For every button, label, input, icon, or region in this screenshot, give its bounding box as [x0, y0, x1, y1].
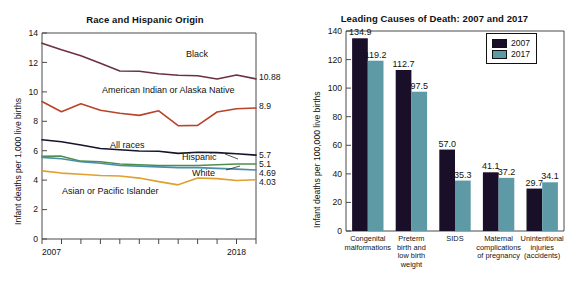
bar-1-1 [411, 92, 427, 231]
legend-swatch-2017 [492, 50, 507, 59]
bar-value-label-1-1: 97.5 [408, 81, 430, 91]
bar-category-label-0: Congenital malformations [343, 235, 393, 252]
bar-0-0 [352, 38, 368, 231]
bar-category-label-4: Unintentional injuries (accidents) [517, 235, 567, 261]
bar-group [352, 38, 558, 231]
bar-4-0 [527, 189, 543, 231]
legend-row-2017: 2017 [492, 49, 530, 59]
bar-0-1 [368, 61, 384, 231]
end-value-black: 10.88 [259, 72, 281, 82]
bar-chart-panel: Leading Causes of Death: 2007 and 2017 I… [290, 0, 579, 288]
legend-swatch-2007 [492, 39, 507, 48]
series-leader-lines [0, 0, 290, 288]
line-chart-panel: Race and Hispanic Origin Infant deaths p… [0, 0, 290, 288]
bar-3-0 [483, 172, 499, 231]
end-value-asian-pacific: 4.03 [259, 177, 276, 187]
bar-value-label-2-0: 57.0 [436, 139, 458, 149]
bar-category-label-1: Preterm birth and low birth weight [387, 235, 437, 269]
bar-4-1 [542, 182, 558, 231]
bar-value-label-0-0: 134.9 [349, 27, 371, 37]
bar-value-label-4-1: 34.1 [539, 171, 561, 181]
end-value-american-indian: 8.9 [259, 101, 271, 111]
bar-value-label-2-1: 35.3 [452, 170, 474, 180]
bar-category-label-2: SIDS [430, 235, 480, 244]
bar-value-label-0-1: 119.2 [365, 50, 387, 60]
bar-3-1 [499, 178, 515, 231]
legend-label-2007: 2007 [511, 38, 530, 48]
legend-label-2017: 2017 [511, 49, 530, 59]
bar-chart-legend: 2007 2017 [486, 33, 537, 64]
bar-2-0 [439, 150, 455, 231]
bar-2-1 [455, 181, 471, 231]
bar-1-0 [396, 70, 412, 231]
legend-row-2007: 2007 [492, 38, 530, 48]
bar-value-label-3-1: 37.2 [495, 167, 517, 177]
bar-value-label-1-0: 112.7 [393, 59, 415, 69]
bar-category-label-3: Maternal complications of pregnancy [474, 235, 524, 261]
figure-root: Race and Hispanic Origin Infant deaths p… [0, 0, 579, 288]
